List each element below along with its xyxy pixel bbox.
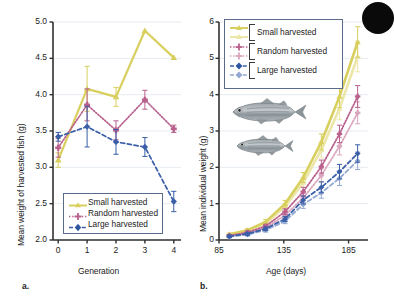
legend-key-large-harvested-b [229, 61, 249, 80]
y-tick-label: 3.5 [19, 125, 47, 135]
page-corner-dot [362, 2, 394, 34]
legend-item-random-harvested[interactable]: Random harvested [68, 208, 158, 219]
panel-b-legend: Small harvested Random harvested [224, 19, 343, 89]
y-tick-label: 6 [197, 16, 214, 26]
x-tick-label: 2 [106, 245, 126, 255]
panel-a-y-axis-title: Mean weight of harvested fish (g) [16, 124, 26, 246]
x-tick-label: 4 [164, 245, 184, 255]
panel-b-y-axis-title: Mean individual weight (g) [198, 136, 208, 232]
x-tick-label: 85 [205, 245, 233, 255]
panel-a-plot [0, 0, 190, 302]
y-tick-label: 2.5 [19, 198, 47, 208]
x-tick-label: 1 [77, 245, 97, 255]
legend-key-large-harvested [68, 219, 88, 230]
legend-item-small-harvested[interactable]: Small harvested [68, 197, 158, 208]
small-fish-illustration [232, 134, 294, 158]
legend-label-random-harvested: Random harvested [88, 208, 158, 219]
x-tick-label: 3 [135, 245, 155, 255]
legend-key-small-harvested [68, 197, 88, 208]
legend-label-large-harvested-b: Large harvested [257, 65, 317, 76]
panel-b-label: b. [200, 281, 208, 291]
y-tick-label: 0 [197, 234, 214, 244]
panel-a-label: a. [22, 281, 29, 291]
legend-key-random-harvested-b [229, 42, 249, 61]
legend-key-small-harvested-b [229, 23, 249, 42]
y-tick-label: 4.5 [19, 52, 47, 62]
y-tick-label: 3.0 [19, 161, 47, 171]
legend-bracket-random [249, 43, 255, 60]
panel-b: Mean individual weight (g) Age (days) b. [190, 0, 380, 302]
x-tick-label: 185 [335, 245, 363, 255]
y-tick-label: 1 [197, 198, 214, 208]
y-tick-label: 3 [197, 125, 214, 135]
legend-label-small-harvested-b: Small harvested [257, 27, 317, 38]
legend-bracket-small [249, 24, 255, 41]
y-tick-label: 4 [197, 89, 214, 99]
y-tick-label: 2 [197, 161, 214, 171]
y-tick-label: 5 [197, 52, 214, 62]
panel-a-legend: Small harvested Random harvested [63, 193, 163, 234]
legend-bracket-large [249, 62, 255, 79]
legend-item-small-harvested-b[interactable]: Small harvested [229, 23, 338, 42]
legend-label-small-harvested: Small harvested [88, 197, 148, 208]
legend-label-random-harvested-b: Random harvested [257, 46, 327, 57]
legend-item-large-harvested-b[interactable]: Large harvested [229, 61, 338, 80]
panel-a: Mean weight of harvested fish (g) Genera… [0, 0, 190, 302]
legend-label-large-harvested: Large harvested [88, 219, 148, 230]
legend-item-random-harvested-b[interactable]: Random harvested [229, 42, 338, 61]
x-tick-label: 135 [270, 245, 298, 255]
y-tick-label: 2.0 [19, 234, 47, 244]
x-tick-label: 0 [48, 245, 68, 255]
panel-a-x-axis-title: Generation [78, 266, 119, 276]
large-fish-illustration [227, 97, 307, 127]
y-tick-label: 4.0 [19, 89, 47, 99]
panel-b-x-axis-title: Age (days) [266, 266, 306, 276]
legend-item-large-harvested[interactable]: Large harvested [68, 219, 158, 230]
legend-key-random-harvested [68, 208, 88, 219]
y-tick-label: 5.0 [19, 16, 47, 26]
